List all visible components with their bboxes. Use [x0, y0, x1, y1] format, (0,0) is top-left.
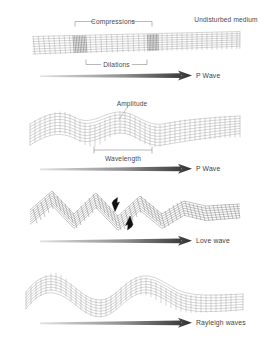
- label-compressions: Compressions: [91, 18, 135, 26]
- label-love-wave: Love wave: [196, 237, 230, 244]
- label-undisturbed-medium: Undisturbed medium: [194, 16, 258, 23]
- label-rayleigh-waves: Rayleigh waves: [196, 319, 246, 327]
- label-p-wave-2: P Wave: [196, 165, 220, 172]
- label-dilations: Dilations: [103, 61, 130, 68]
- seismic-waves-diagram: Compressions Undisturbed medium Dilation…: [0, 0, 273, 338]
- label-wavelength: Wavelength: [105, 155, 141, 163]
- label-amplitude: Amplitude: [117, 100, 148, 108]
- label-p-wave-1: P Wave: [196, 72, 220, 79]
